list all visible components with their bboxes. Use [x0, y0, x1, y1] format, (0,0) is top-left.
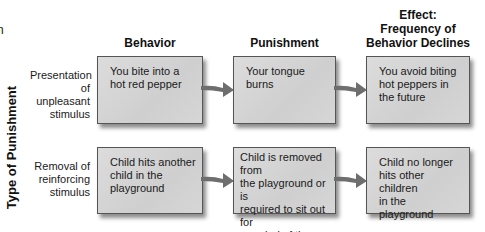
- box-punishment-removed: Child is removed from the playground or …: [233, 147, 336, 214]
- box-line: playground: [110, 182, 196, 195]
- label-line: Presentation: [30, 69, 90, 82]
- box-line: hot red pepper: [110, 78, 196, 91]
- y-axis-label-text: Type of Punishment: [5, 85, 20, 208]
- box-line: hot peppers in: [379, 78, 463, 91]
- box-line: in the playground: [379, 195, 463, 221]
- box-line: burns: [246, 78, 329, 91]
- header-line: Frequency of: [356, 22, 480, 36]
- cropped-text-fragment: n: [0, 23, 4, 37]
- box-line: You bite into a: [110, 65, 196, 78]
- box-line: Child is removed from: [240, 151, 329, 177]
- row-label-removal: Removal of reinforcing stimulus: [30, 160, 90, 199]
- header-line: Effect:: [356, 8, 480, 22]
- box-line: required to sit out for: [240, 203, 329, 229]
- label-line: Removal of: [30, 160, 90, 173]
- right-arrow-icon: [201, 171, 235, 189]
- label-line: reinforcing: [30, 173, 90, 186]
- box-line: You avoid biting: [379, 65, 463, 78]
- box-effect-avoid-peppers: You avoid biting hot peppers in the futu…: [366, 56, 470, 124]
- box-line: Child hits another: [110, 156, 196, 169]
- box-behavior-pepper: You bite into a hot red pepper: [97, 56, 203, 124]
- label-line: stimulus: [30, 186, 90, 199]
- box-line: a period of time: [240, 229, 329, 232]
- right-arrow-icon: [334, 171, 368, 189]
- right-arrow-icon: [201, 80, 235, 98]
- box-line: child in the: [110, 169, 196, 182]
- box-punishment-tongue: Your tongue burns: [233, 56, 336, 124]
- header-line: Behavior Declines: [356, 36, 480, 50]
- label-line: of unpleasant: [30, 82, 90, 108]
- right-arrow-icon: [334, 80, 368, 98]
- box-line: Child no longer: [379, 156, 463, 169]
- y-axis-label: Type of Punishment: [2, 82, 22, 212]
- box-behavior-child-hits: Child hits another child in the playgrou…: [97, 147, 203, 214]
- column-header-behavior: Behavior: [97, 36, 203, 50]
- column-header-effect: Effect: Frequency of Behavior Declines: [356, 8, 480, 50]
- box-line: Your tongue: [246, 65, 329, 78]
- box-line: the playground or is: [240, 177, 329, 203]
- row-label-presentation: Presentation of unpleasant stimulus: [30, 69, 90, 121]
- label-line: stimulus: [30, 108, 90, 121]
- box-line: the future: [379, 91, 463, 104]
- box-line: hits other children: [379, 169, 463, 195]
- box-effect-no-longer-hits: Child no longer hits other children in t…: [366, 147, 470, 214]
- column-header-punishment: Punishment: [233, 36, 336, 50]
